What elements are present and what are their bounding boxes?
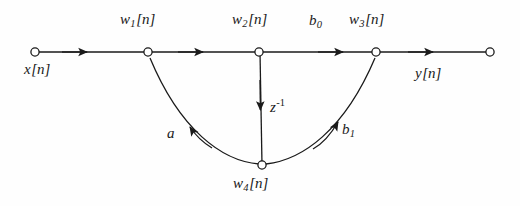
- node-label-y: y[n]: [415, 66, 441, 81]
- branch-label-b1-subscript: 1: [350, 128, 356, 139]
- node-w1: [144, 48, 152, 56]
- node-label-w2-base: w: [232, 11, 242, 27]
- node-label-w4-suffix: [n]: [249, 175, 269, 191]
- branch-label-b1: b1: [342, 122, 355, 139]
- branch-label-z-inverse: z-1: [270, 98, 285, 115]
- branch-label-b0: b0: [309, 13, 322, 30]
- node-label-w4-base: w: [233, 175, 243, 191]
- branch-label-b0-subscript: 0: [317, 19, 323, 30]
- node-label-w2-suffix: [n]: [248, 11, 268, 27]
- node-label-y-base: y: [415, 65, 422, 81]
- branch-label-b1-base: b: [342, 121, 350, 137]
- node-w3: [372, 48, 380, 56]
- edge-w4-to-w1-curve: [150, 58, 259, 164]
- branch-label-b0-base: b: [309, 12, 317, 28]
- node-label-w1: w1[n]: [120, 12, 155, 29]
- node-y: [486, 48, 494, 56]
- node-label-w2: w2[n]: [232, 12, 267, 29]
- node-w4: [258, 161, 266, 169]
- node-label-x: x[n]: [24, 62, 50, 77]
- node-label-y-suffix: [n]: [422, 65, 442, 81]
- node-label-w4: w4[n]: [233, 176, 268, 193]
- node-label-w2-subscript: 2: [242, 18, 248, 29]
- node-x: [31, 48, 39, 56]
- signal-flow-graph-figure: x[n] w1[n] w2[n] w3[n] y[n] w4[n] b0 z-1…: [0, 0, 520, 206]
- branch-label-z-base: z: [270, 99, 276, 115]
- edge-w4-to-w1-arrow: [190, 127, 212, 148]
- node-label-w3-suffix: [n]: [365, 11, 385, 27]
- node-label-w3: w3[n]: [349, 12, 384, 29]
- node-label-x-base: x: [24, 61, 31, 77]
- edge-w4-to-w3-arrow: [313, 122, 338, 149]
- node-label-w3-subscript: 3: [359, 18, 365, 29]
- node-w2: [255, 48, 263, 56]
- branch-label-a-base: a: [167, 125, 175, 141]
- node-label-w4-subscript: 4: [243, 182, 249, 193]
- node-label-w3-base: w: [349, 11, 359, 27]
- branch-label-z-exponent: -1: [276, 97, 285, 108]
- node-label-x-suffix: [n]: [31, 61, 51, 77]
- node-label-w1-subscript: 1: [130, 18, 136, 29]
- node-label-w1-base: w: [120, 11, 130, 27]
- branch-label-a: a: [167, 126, 175, 141]
- node-label-w1-suffix: [n]: [136, 11, 156, 27]
